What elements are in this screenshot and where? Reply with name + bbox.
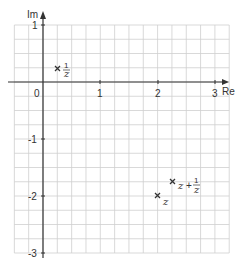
imag-axis-arrow-icon [40,11,46,19]
real-axis-label: Re [222,86,235,97]
x-tick-3: 3 [212,88,218,99]
imag-axis-label: Im [27,9,38,20]
y-tick-neg3: -3 [28,248,37,259]
svg-text:+: + [186,180,192,191]
y-tick-neg1: -1 [28,134,37,145]
x-tick-1: 1 [97,88,103,99]
y-tick-1: 1 [32,20,38,31]
point-z: z [155,193,169,207]
complex-plane-diagram: Im Re 0 1 2 3 1 -1 -2 -3 1 z z z + 1 z [0,0,244,267]
x-tick-2: 2 [155,88,161,99]
svg-text:z: z [63,68,70,79]
y-tick-neg2: -2 [28,191,37,202]
svg-text:z: z [162,196,169,207]
real-axis-arrow-icon [222,79,229,85]
x-tick-0: 0 [34,88,40,99]
svg-text:z: z [193,184,200,195]
svg-text:z: z [177,180,184,191]
grid [14,25,229,253]
point-z-plus-one-over-z: z + 1 z [170,176,200,195]
